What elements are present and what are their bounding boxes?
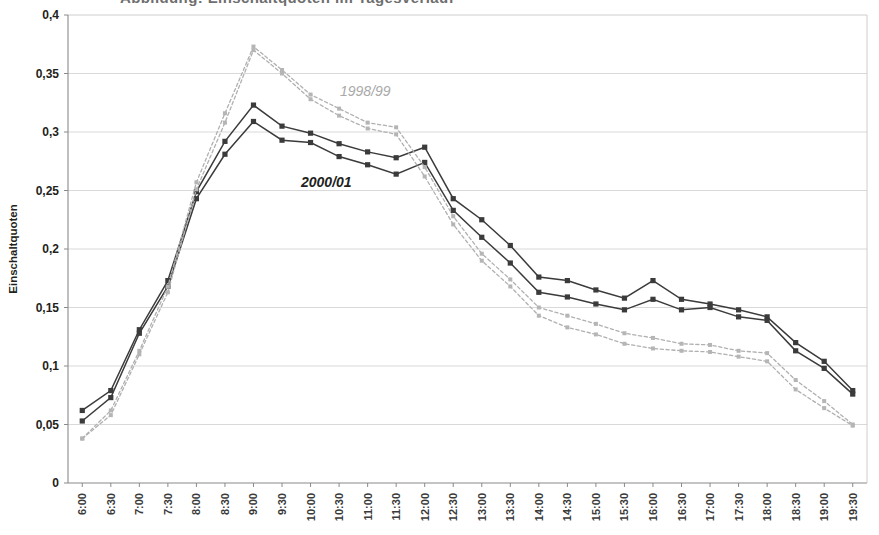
x-tick-label: 15:00 [590, 493, 602, 521]
x-tick-label: 13:30 [504, 493, 516, 521]
data-point-marker [593, 301, 598, 306]
data-point-marker [536, 274, 541, 279]
data-point-marker [622, 342, 626, 346]
data-point-marker [280, 72, 284, 76]
data-point-marker [651, 346, 655, 350]
data-point-marker [737, 355, 741, 359]
y-tick-labels-group: 00,050,10,150,20,250,30,350,4 [36, 8, 60, 490]
data-point-marker [680, 342, 684, 346]
x-tick-label: 16:00 [647, 493, 659, 521]
data-point-marker [679, 307, 684, 312]
data-point-marker [737, 349, 741, 353]
x-tick-label: 13:00 [476, 493, 488, 521]
data-point-marker [423, 174, 427, 178]
x-tick-label: 9:30 [276, 493, 288, 515]
y-tick-label: 0,1 [42, 359, 59, 373]
x-tick-label: 8:30 [219, 493, 231, 515]
y-tick-label: 0,25 [36, 184, 60, 198]
data-point-marker [537, 306, 541, 310]
series-1 [80, 119, 856, 424]
data-point-marker [822, 399, 826, 403]
y-tick-label: 0,4 [42, 8, 59, 22]
x-tick-label: 9:00 [247, 493, 259, 515]
data-point-marker [251, 48, 255, 52]
data-point-marker [622, 296, 627, 301]
data-point-marker [508, 260, 513, 265]
x-tick-label: 18:00 [761, 493, 773, 521]
data-point-marker [451, 214, 455, 218]
data-point-marker [480, 259, 484, 263]
series-line [82, 121, 852, 421]
data-point-marker [736, 307, 741, 312]
data-point-marker [222, 152, 227, 157]
x-tick-label: 15:30 [618, 493, 630, 521]
data-point-marker [365, 162, 370, 167]
data-point-marker [279, 124, 284, 129]
data-point-marker [365, 149, 370, 154]
series-annotations-group: 1998/992000/01 [300, 83, 391, 190]
data-point-marker [508, 243, 513, 248]
data-point-marker [793, 340, 798, 345]
x-tick-label: 10:30 [333, 493, 345, 521]
data-point-marker [565, 294, 570, 299]
data-point-marker [565, 325, 569, 329]
data-series-group [80, 45, 856, 441]
data-point-marker [765, 359, 769, 363]
data-point-marker [451, 222, 455, 226]
data-point-marker [765, 351, 769, 355]
data-point-marker [850, 391, 855, 396]
data-point-marker [366, 126, 370, 130]
y-tick-label: 0,3 [42, 125, 59, 139]
data-point-marker [708, 350, 712, 354]
x-tick-label: 11:00 [362, 493, 374, 521]
data-point-marker [423, 165, 427, 169]
chart-figure: Abbildung: Einschaltquoten im Tagesverla… [0, 0, 879, 535]
data-point-marker [593, 287, 598, 292]
x-tick-label: 11:30 [390, 493, 402, 521]
x-tick-label: 6:30 [105, 493, 117, 515]
data-point-marker [822, 366, 827, 371]
data-point-marker [308, 140, 313, 145]
x-tick-label: 14:30 [561, 493, 573, 521]
data-point-marker [109, 413, 113, 417]
data-point-marker [479, 217, 484, 222]
data-point-marker [479, 235, 484, 240]
data-point-marker [394, 132, 398, 136]
data-point-marker [594, 332, 598, 336]
data-point-marker [622, 307, 627, 312]
data-point-marker [223, 121, 227, 125]
series-line [82, 50, 852, 438]
data-point-marker [251, 119, 256, 124]
data-point-marker [279, 138, 284, 143]
data-point-marker [680, 349, 684, 353]
data-point-marker [794, 387, 798, 391]
data-point-marker [222, 139, 227, 144]
data-point-marker [394, 155, 399, 160]
data-point-marker [422, 145, 427, 150]
data-point-marker [308, 131, 313, 136]
data-point-marker [137, 331, 142, 336]
data-point-marker [765, 318, 770, 323]
data-point-marker [650, 297, 655, 302]
x-tick-label: 19:00 [818, 493, 830, 521]
data-point-marker [309, 97, 313, 101]
data-point-marker [336, 141, 341, 146]
data-point-marker [565, 278, 570, 283]
data-point-marker [794, 378, 798, 382]
x-tick-label: 7:00 [133, 493, 145, 515]
data-point-marker [251, 102, 256, 107]
data-point-marker [80, 437, 84, 441]
data-point-marker [137, 352, 141, 356]
series-line [82, 105, 852, 410]
data-point-marker [536, 290, 541, 295]
data-point-marker [708, 343, 712, 347]
data-point-marker [280, 68, 284, 72]
y-tick-label: 0,35 [36, 67, 60, 81]
x-tick-label: 10:00 [305, 493, 317, 521]
data-point-marker [451, 208, 456, 213]
axes-group [64, 15, 867, 487]
data-point-marker [822, 359, 827, 364]
data-point-marker [651, 336, 655, 340]
data-point-marker [679, 297, 684, 302]
data-point-marker [594, 322, 598, 326]
